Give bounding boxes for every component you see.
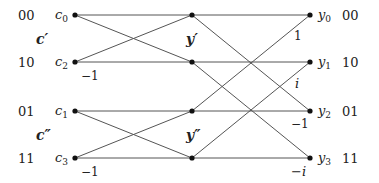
output-label-y0: y0 (317, 7, 331, 24)
input-label-c3: c3 (55, 150, 68, 167)
group-label-y-prime: y′ (185, 31, 198, 47)
node-c3 (72, 155, 77, 160)
weight-label: 1 (294, 29, 302, 43)
input-label-c2: c2 (55, 54, 68, 71)
node-y3 (307, 155, 312, 160)
node-mid (189, 59, 194, 64)
weight-label: −1 (291, 117, 309, 131)
left-code: 10 (18, 55, 35, 70)
output-label-y3: y3 (317, 150, 331, 167)
right-code: 11 (342, 151, 359, 166)
node-mid (189, 12, 194, 17)
weight-label: −1 (81, 69, 99, 83)
left-code: 01 (18, 104, 35, 119)
input-label-c1: c1 (55, 103, 68, 120)
group-label-y-double-prime: y″ (185, 127, 201, 143)
right-code: 10 (342, 55, 359, 70)
input-label-c0: c0 (55, 7, 68, 24)
left-code: 11 (18, 151, 35, 166)
group-label-c-prime: c′ (36, 31, 49, 47)
node-c0 (72, 12, 77, 17)
node-mid (189, 155, 194, 160)
output-label-y1: y1 (317, 54, 331, 71)
node-c2 (72, 59, 77, 64)
node-y1 (307, 59, 312, 64)
node-y0 (307, 12, 312, 17)
right-code: 00 (342, 8, 359, 23)
node-y2 (307, 108, 312, 113)
weight-label: i (295, 76, 299, 91)
output-label-y2: y2 (317, 103, 331, 120)
group-label-c-double-prime: c″ (36, 127, 52, 143)
right-code: 01 (342, 104, 359, 119)
weight-label: −1 (81, 165, 99, 179)
left-code: 00 (18, 8, 35, 23)
weight-label: −i (291, 164, 306, 179)
node-mid (189, 108, 194, 113)
node-c1 (72, 108, 77, 113)
butterfly-diagram: 00 10 01 11 00 10 01 11 c0 c2 c1 c3 y0 y… (0, 0, 379, 183)
